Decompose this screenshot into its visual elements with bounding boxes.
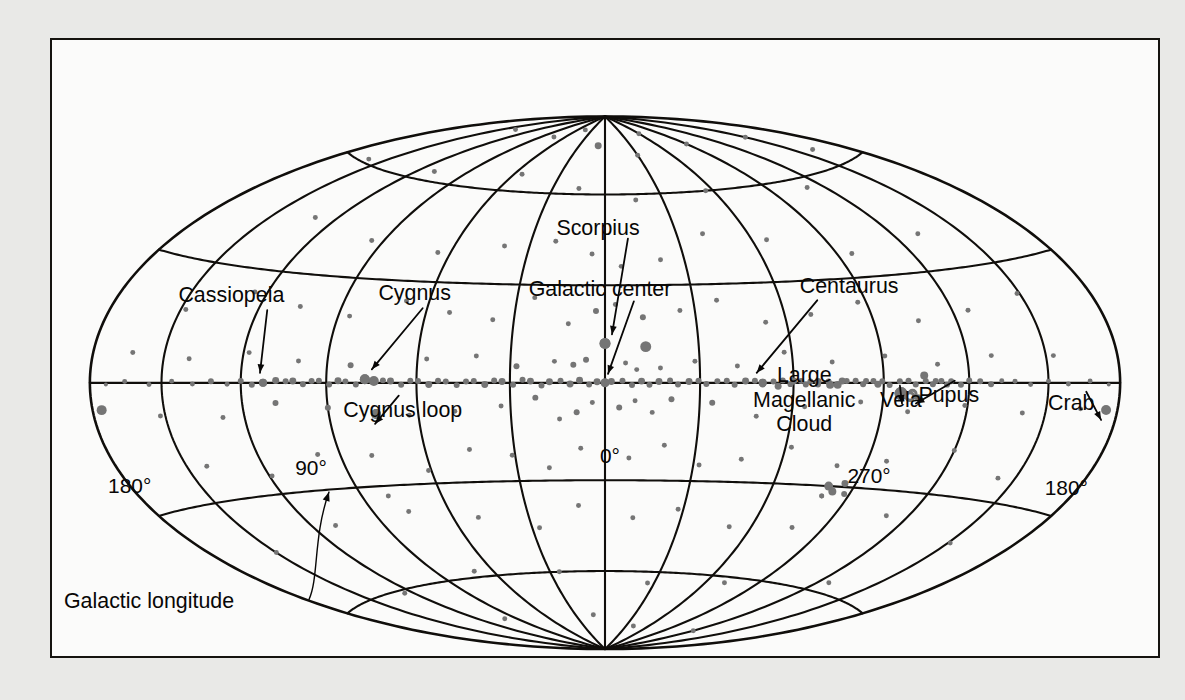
source-point — [1020, 410, 1025, 415]
source-point — [490, 317, 495, 322]
source-point — [616, 404, 622, 410]
source-point — [97, 405, 107, 415]
source-point — [935, 362, 940, 367]
source-point — [586, 381, 592, 387]
source-point — [300, 381, 306, 387]
source-point — [692, 359, 697, 364]
figure-panel: ScorpiusGalactic centerCassiopeiaCygnusC… — [50, 38, 1160, 658]
source-point — [853, 378, 859, 384]
source-point — [510, 453, 515, 458]
source-point — [593, 308, 599, 314]
source-point — [697, 463, 702, 468]
source-point — [296, 359, 301, 364]
source-point — [722, 580, 727, 585]
source-point — [570, 362, 576, 368]
source-point — [225, 382, 230, 387]
source-point — [631, 623, 636, 628]
source-point — [764, 237, 769, 242]
annotation-labels: ScorpiusGalactic centerCassiopeiaCygnusC… — [178, 215, 1094, 436]
source-point — [650, 410, 655, 415]
source-point-cassiopeia — [259, 379, 267, 387]
source-point — [703, 188, 708, 193]
source-point — [472, 569, 477, 574]
source-point — [249, 382, 255, 388]
label-cygnus: Cygnus — [378, 281, 451, 305]
pointer-head-galactic-longitude — [323, 492, 330, 502]
source-point — [988, 381, 994, 387]
longitude-caption-group: Galactic longitude — [64, 589, 234, 613]
source-point — [1028, 382, 1033, 387]
source-point — [333, 523, 338, 528]
source-point — [366, 157, 371, 162]
source-point — [432, 169, 437, 174]
source-point — [122, 379, 127, 384]
source-point-centaurus — [759, 379, 767, 387]
source-point — [386, 493, 391, 498]
tick-right-180: 180° — [1045, 476, 1088, 499]
source-point — [739, 457, 744, 462]
source-point — [289, 377, 296, 384]
source-point — [1088, 379, 1093, 384]
source-point — [677, 308, 682, 313]
source-point — [835, 463, 840, 468]
source-point — [863, 378, 869, 384]
label-pupus: Pupus — [918, 382, 979, 406]
source-point — [220, 415, 225, 420]
source-point — [884, 513, 889, 518]
source-point — [808, 312, 813, 317]
source-point — [916, 318, 921, 323]
source-point — [634, 367, 639, 372]
source-point — [576, 503, 581, 508]
source-point — [675, 381, 681, 387]
source-point — [190, 381, 195, 386]
label-galactic-longitude: Galactic longitude — [64, 589, 234, 613]
source-point — [826, 580, 831, 585]
source-point — [635, 153, 640, 158]
source-point — [447, 310, 452, 315]
source-point — [208, 378, 214, 384]
source-point — [369, 238, 374, 243]
source-point-galactic-center — [601, 379, 609, 387]
source-point — [552, 359, 557, 364]
source-point — [686, 378, 693, 385]
source-point — [551, 134, 556, 139]
source-point — [789, 445, 794, 450]
longitude-tick-labels: 180°90°0°270°180° — [108, 444, 1088, 499]
source-point-large-magellanic-cloud — [819, 493, 824, 498]
source-point — [270, 473, 275, 478]
source-point — [513, 363, 519, 369]
label-galactic-center: Galactic center — [529, 277, 672, 301]
source-point — [633, 197, 638, 202]
source-point — [714, 378, 720, 384]
source-point — [513, 127, 518, 132]
source-point — [790, 525, 795, 530]
source-point — [771, 378, 777, 384]
source-point — [283, 378, 289, 384]
source-point — [828, 487, 836, 495]
source-point — [727, 524, 732, 529]
source-point — [841, 491, 847, 497]
source-point — [491, 377, 497, 383]
source-point — [546, 378, 553, 385]
source-point — [633, 398, 638, 403]
source-point — [662, 443, 667, 448]
tick-left-90: 90° — [295, 456, 327, 479]
source-point — [369, 376, 379, 386]
source-point — [335, 377, 342, 384]
source-point — [646, 382, 652, 388]
source-point — [104, 383, 108, 387]
source-point — [510, 382, 516, 388]
pointer-head-crab — [1094, 411, 1101, 420]
source-point — [590, 400, 595, 405]
label-centaurus: Centaurus — [800, 274, 899, 298]
source-point — [443, 378, 449, 384]
source-point — [1046, 379, 1051, 384]
source-point — [325, 405, 331, 411]
source-point — [387, 378, 394, 385]
source-point — [402, 591, 407, 596]
source-point — [342, 378, 348, 384]
source-point — [591, 612, 596, 617]
label-crab: Crab — [1048, 390, 1094, 414]
source-point — [754, 414, 759, 419]
source-point — [424, 357, 429, 362]
